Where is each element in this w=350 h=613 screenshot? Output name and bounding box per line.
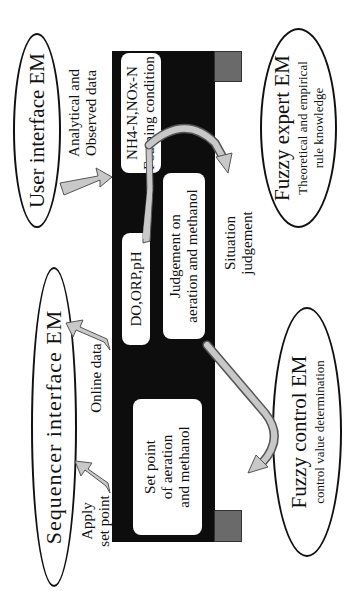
online-data-arrow-icon	[66, 320, 110, 350]
fuzzy-control-arrow-icon	[207, 345, 274, 473]
diagram-canvas: NH4-N,NOx-N Foaming condition DO,ORP,pH …	[0, 0, 350, 613]
analytical-data-arrow-icon	[60, 168, 112, 195]
situation-judgement-arrow-icon	[149, 128, 232, 173]
arrows-layer	[0, 0, 350, 613]
apply-set-point-arrow-icon	[75, 461, 110, 493]
do-to-expert-connector-icon	[143, 145, 153, 243]
